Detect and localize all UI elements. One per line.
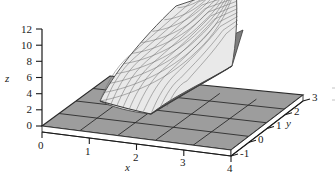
z-tick-label-6: 6 (16, 72, 32, 83)
x-tick-label-2: 2 (133, 152, 139, 163)
z-tick-label-0: 0 (16, 120, 32, 131)
plot-canvas (0, 0, 336, 175)
x-tick-label-4: 4 (227, 163, 233, 174)
y-tick-label-3: 3 (312, 92, 318, 103)
z-axis-title: z (5, 73, 9, 84)
surface-plot-figure: 12 10 8 6 4 2 0 z 0 1 2 3 4 x -1 0 1 2 3… (0, 0, 336, 175)
y-tick-label-2: 2 (294, 106, 300, 117)
z-tick-label-12: 12 (16, 24, 32, 35)
z-tick-label-4: 4 (16, 88, 32, 99)
z-tick-label-8: 8 (16, 56, 32, 67)
y-tick-label-1: 1 (276, 120, 282, 131)
z-tick-label-10: 10 (16, 40, 32, 51)
z-tick-label-2: 2 (16, 104, 32, 115)
x-tick-label-3: 3 (180, 157, 186, 168)
y-tick-label-minus1: -1 (240, 148, 249, 159)
y-tick-label-0: 0 (258, 134, 264, 145)
x-axis-title: x (125, 162, 130, 173)
x-tick-label-1: 1 (85, 146, 91, 157)
edge-artifact (332, 88, 335, 100)
z-axis-ticks (36, 29, 42, 126)
x-tick-label-0: 0 (38, 140, 44, 151)
y-axis-title: y (286, 118, 291, 129)
